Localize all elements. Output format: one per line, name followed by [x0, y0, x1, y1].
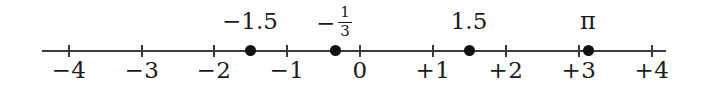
tick-mark [578, 45, 580, 57]
axis-tick-label-plus-4: +4 [635, 59, 670, 82]
tick-mark [359, 45, 361, 57]
point-dot-minus-one-third [330, 45, 341, 56]
axis-tick-label-plus-1: +1 [416, 59, 451, 82]
fraction-stack: 1 3 [338, 5, 352, 40]
tick-mark [141, 45, 143, 57]
tick-mark [68, 45, 70, 57]
tick-mark [432, 45, 434, 57]
point-dot-pi [583, 45, 594, 56]
tick-mark [651, 45, 653, 57]
fraction-numerator: 1 [338, 5, 352, 21]
point-label-1-5: 1.5 [451, 10, 488, 33]
number-line-axis [42, 50, 666, 52]
tick-mark [505, 45, 507, 57]
axis-tick-label-plus-3: +3 [562, 59, 597, 82]
fraction-minus-sign: − [316, 12, 335, 35]
fraction-denominator: 3 [338, 24, 352, 40]
point-label-minus-one-third: − 1 3 [316, 5, 352, 40]
tick-mark [286, 45, 288, 57]
point-label-pi: π [580, 9, 596, 33]
axis-tick-label-zero: 0 [352, 59, 367, 82]
point-dot-1-5 [464, 45, 475, 56]
axis-tick-label-minus-2: −2 [197, 59, 232, 82]
tick-mark [213, 45, 215, 57]
axis-tick-label-minus-1: −1 [270, 59, 305, 82]
number-line-figure: −4 −3 −2 −1 0 +1 +2 +3 +4 −1.5 − 1 3 1.5… [0, 0, 706, 91]
axis-tick-label-plus-2: +2 [489, 59, 524, 82]
point-dot-minus-1-5 [245, 45, 256, 56]
point-label-minus-1-5: −1.5 [222, 10, 278, 33]
axis-tick-label-minus-3: −3 [125, 59, 160, 82]
axis-tick-label-minus-4: −4 [52, 59, 87, 82]
